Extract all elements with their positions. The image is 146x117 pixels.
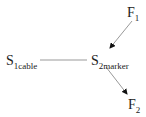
node-f2-main: F	[128, 97, 136, 112]
node-f1: F1	[127, 6, 139, 20]
node-s1-sub: 1cable	[14, 61, 37, 71]
node-f1-main: F	[127, 5, 135, 20]
node-s2marker: S2marker	[91, 54, 129, 68]
node-s2-main: S	[91, 53, 99, 68]
node-f2-sub: 2	[136, 105, 141, 115]
node-s1cable: S1cable	[6, 54, 37, 68]
edge-s2-f2-arrow	[106, 67, 127, 94]
node-s2-sub: 2marker	[99, 61, 129, 71]
node-f1-sub: 1	[135, 13, 140, 23]
edge-f1-s2-arrow	[110, 21, 132, 48]
node-s1-main: S	[6, 53, 14, 68]
node-f2: F2	[128, 98, 140, 112]
